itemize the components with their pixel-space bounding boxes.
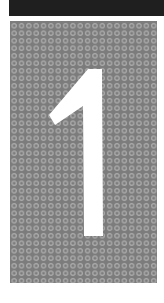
dotted-panel (10, 21, 157, 283)
top-dark-band (9, 0, 164, 16)
